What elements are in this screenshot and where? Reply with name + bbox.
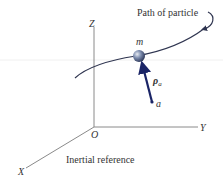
point-a-label: a: [156, 98, 161, 109]
mass-label: m: [136, 36, 143, 47]
rho-a-vector: [143, 67, 152, 102]
y-axis-label: Y: [200, 122, 207, 133]
diagram-canvas: m ρa a Z Y X O Path of particle Inertial…: [0, 0, 223, 184]
path-pointer-arrow: [204, 12, 213, 29]
x-axis-label: X: [17, 166, 25, 177]
particle-mass: [133, 50, 145, 62]
origin-label: O: [91, 129, 98, 140]
caption-inertial-reference: Inertial reference: [66, 154, 135, 165]
path-label: Path of particle: [137, 7, 199, 18]
point-a-dot: [150, 100, 153, 103]
vector-label: ρa: [152, 75, 162, 88]
z-axis-label: Z: [89, 18, 95, 29]
